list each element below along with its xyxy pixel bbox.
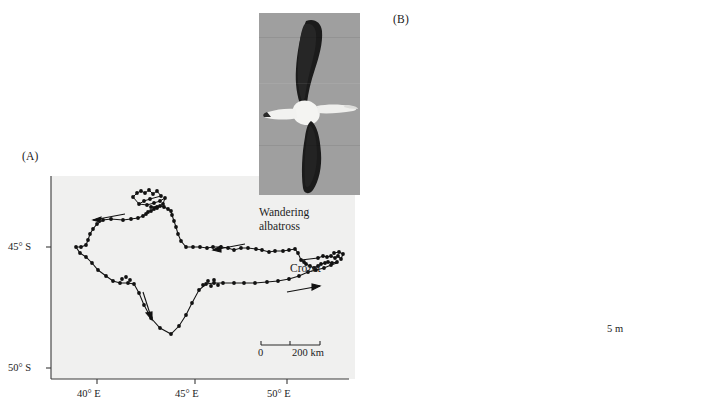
panel-b-scale-label: 5 m	[607, 323, 623, 334]
panel-a: (A)	[0, 0, 375, 410]
panel-a-scale-end-label: 200 km	[292, 347, 324, 358]
panel-a-x-ticks	[97, 379, 287, 384]
panel-a-ytick-45s: 45° S	[8, 241, 31, 252]
panel-a-xtick-40e: 40° E	[77, 388, 101, 399]
panel-a-xtick-45e: 45° E	[175, 388, 199, 399]
direction-arrow-west-upper	[93, 214, 125, 222]
panel-a-xtick-50e: 50° E	[267, 388, 291, 399]
panel-a-scale-start-label: 0	[258, 347, 263, 358]
panel-b: (B)	[375, 0, 718, 410]
panel-a-scale-bar	[261, 341, 320, 345]
crozet-place-label: Crozet	[290, 262, 321, 274]
panel-a-y-ticks	[46, 247, 51, 368]
direction-arrow-east-return	[287, 284, 320, 292]
panel-a-direction-arrows	[93, 214, 320, 320]
figure-root: (A)	[0, 0, 718, 410]
panel-b-letter: (B)	[393, 13, 409, 25]
panel-a-ytick-50s: 50° S	[8, 362, 31, 373]
